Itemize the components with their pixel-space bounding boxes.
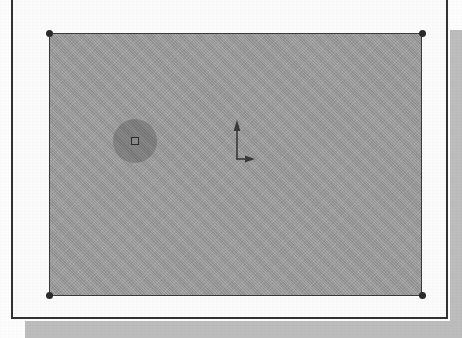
selection-grip-bottom-right[interactable] xyxy=(419,292,426,299)
application-window-frame: Drawing Canvas Model Space Rectangle Cir… xyxy=(11,0,448,319)
window-drop-shadow xyxy=(25,321,462,338)
coordinate-axis-icon: X Y xyxy=(218,118,264,168)
selection-grip-top-right[interactable] xyxy=(419,30,426,37)
center-point-label: Center Point xyxy=(132,138,133,139)
selection-grip-top-left[interactable] xyxy=(46,30,53,37)
drawing-canvas[interactable]: Drawing Canvas Model Space Rectangle Cir… xyxy=(13,0,446,317)
selection-grip-bottom-left[interactable] xyxy=(46,292,53,299)
window-drop-shadow-right xyxy=(450,30,462,322)
screenshot-root: Drawing Canvas Model Space Rectangle Cir… xyxy=(0,0,462,338)
center-point-node[interactable]: Center Point xyxy=(131,137,139,145)
